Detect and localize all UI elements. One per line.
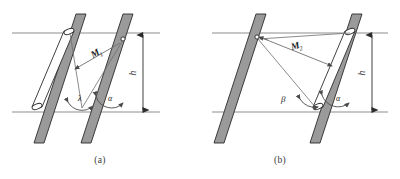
panel-b-link-line [258,39,316,108]
panel-b: M 2 β α h [212,14,388,143]
panel-b-angle-label-beta: β [280,94,286,104]
panel-a: M 1 λ α h [12,14,160,143]
panel-a-caption: (a) [78,155,122,165]
panel-b-moment-subscript: 2 [298,44,304,52]
panel-a-angle-label-alpha: α [108,94,113,103]
panel-b-pivot-dot [255,35,259,39]
panel-b-caption: (b) [258,155,302,165]
panel-b-angle-label-alpha: α [336,94,341,103]
technical-diagram: M 1 λ α h [0,0,400,179]
panel-b-link-line-2 [258,33,350,39]
panel-a-height-label: h [128,70,138,75]
panel-a-angle-arc-lambda [68,102,93,110]
figure-root: M 1 λ α h [0,0,400,179]
panel-b-height-label: h [357,70,367,75]
panel-a-angle-label-lambda: λ [77,93,82,103]
